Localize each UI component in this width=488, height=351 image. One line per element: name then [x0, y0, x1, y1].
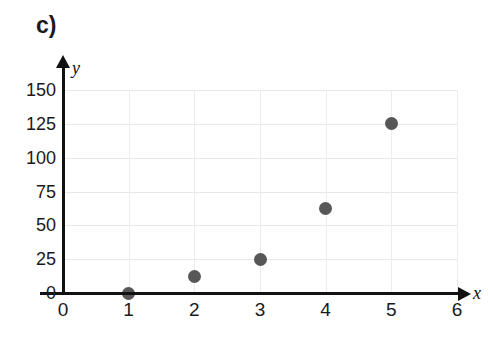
x-tick-label: 6: [437, 300, 477, 319]
chart-figure: c) y x 0255075100125150 0123456: [0, 0, 488, 351]
x-axis-tick-labels: 0123456: [0, 0, 488, 351]
x-tick-label: 5: [371, 300, 411, 319]
x-tick-label: 0: [43, 300, 83, 319]
x-tick-label: 1: [109, 300, 149, 319]
x-tick-label: 3: [240, 300, 280, 319]
x-tick-label: 4: [306, 300, 346, 319]
x-tick-label: 2: [174, 300, 214, 319]
